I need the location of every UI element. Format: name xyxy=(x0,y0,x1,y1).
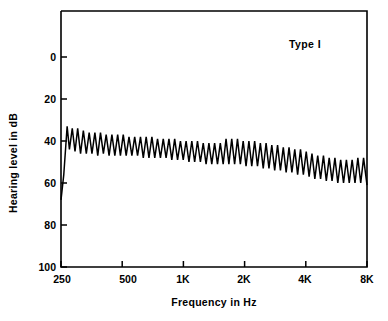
x-tick-label-8K: 8K xyxy=(347,273,387,285)
y-tick-label-20: 20 xyxy=(22,93,56,105)
y-tick-label-100: 100 xyxy=(22,261,56,273)
y-axis-title: Hearing level in dB xyxy=(2,55,24,270)
x-axis-title: Frequency in Hz xyxy=(61,296,367,308)
y-tick-label-80: 80 xyxy=(22,219,56,231)
series-annotation-type-i: Type I xyxy=(289,38,321,50)
audiogram-figure: Hearing level in dB Frequency in Hz 0 20… xyxy=(0,0,388,321)
data-series-group xyxy=(61,126,367,200)
x-tick-label-4K: 4K xyxy=(285,273,325,285)
bekesy-trace xyxy=(61,126,367,200)
x-tick-marks xyxy=(61,261,367,267)
x-tick-label-1K: 1K xyxy=(163,273,203,285)
y-tick-label-60: 60 xyxy=(22,177,56,189)
x-tick-label-250: 250 xyxy=(42,273,82,285)
y-tick-label-0: 0 xyxy=(22,51,56,63)
x-tick-label-2K: 2K xyxy=(224,273,264,285)
y-axis-title-text: Hearing level in dB xyxy=(7,112,19,212)
y-tick-label-40: 40 xyxy=(22,135,56,147)
x-tick-label-500: 500 xyxy=(108,273,148,285)
